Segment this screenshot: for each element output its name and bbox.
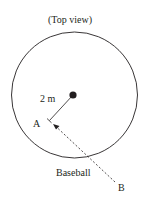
diagram-title: (Top view) bbox=[48, 14, 92, 26]
top-view-diagram: (Top view) 2 m A Baseball B bbox=[0, 0, 141, 202]
point-b-label: B bbox=[118, 182, 125, 193]
baseball-label: Baseball bbox=[56, 167, 91, 178]
point-a-label: A bbox=[33, 118, 41, 129]
radius-label: 2 m bbox=[40, 93, 56, 104]
